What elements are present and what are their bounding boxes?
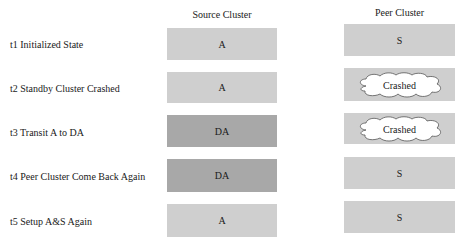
source-state-text: A — [218, 82, 225, 93]
row-label-t5: t5 Setup A&S Again — [10, 216, 92, 227]
source-state-t4: DA — [167, 159, 277, 192]
source-state-text: DA — [215, 170, 229, 181]
source-state-t1: A — [167, 28, 277, 60]
peer-state-t5: S — [344, 201, 455, 233]
peer-state-t4: S — [344, 157, 455, 189]
crashed-cloud: Crashed — [356, 72, 444, 98]
crashed-text: Crashed — [356, 79, 444, 90]
peer-state-t1: S — [344, 24, 455, 56]
crashed-text: Crashed — [356, 123, 444, 134]
peer-state-text: S — [397, 168, 403, 179]
source-state-text: A — [218, 215, 225, 226]
source-state-text: DA — [215, 126, 229, 137]
source-state-t5: A — [167, 204, 277, 237]
source-state-t2: A — [167, 72, 277, 103]
peer-state-t2: Crashed — [344, 68, 455, 101]
row-label-t1: t1 Initialized State — [10, 39, 83, 50]
header-source-cluster: Source Cluster — [167, 9, 277, 20]
row-label-t4: t4 Peer Cluster Come Back Again — [10, 171, 145, 182]
source-state-text: A — [218, 39, 225, 50]
row-label-t3: t3 Transit A to DA — [10, 127, 84, 138]
source-state-t3: DA — [167, 115, 277, 147]
peer-state-t3: Crashed — [344, 113, 455, 144]
row-label-t2: t2 Standby Cluster Crashed — [10, 83, 120, 94]
crashed-cloud: Crashed — [356, 116, 444, 142]
header-peer-cluster: Peer Cluster — [344, 7, 455, 18]
peer-state-text: S — [397, 35, 403, 46]
peer-state-text: S — [397, 212, 403, 223]
